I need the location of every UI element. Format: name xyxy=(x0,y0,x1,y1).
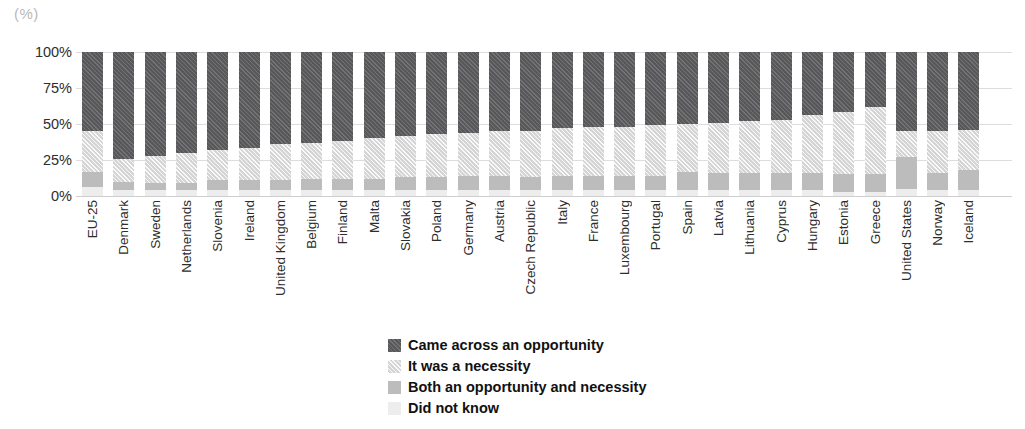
chart-bar[interactable] xyxy=(645,52,666,196)
chart-bar-segment xyxy=(176,183,197,190)
chart-bar-segment xyxy=(458,190,479,196)
chart-bar-segment xyxy=(145,52,166,156)
chart-bar-segment xyxy=(270,190,291,196)
chart-bar-segment xyxy=(82,131,103,171)
chart-bar-segment xyxy=(614,190,635,196)
x-axis-tick-label: Netherlands xyxy=(176,200,197,273)
chart-bar-segment xyxy=(113,159,134,182)
pale-grey-swatch xyxy=(388,402,401,415)
chart-bar-segment xyxy=(614,176,635,190)
chart-bar[interactable] xyxy=(489,52,510,196)
chart-bar-segment xyxy=(426,134,447,177)
chart-bar[interactable] xyxy=(239,52,260,196)
chart-bar[interactable] xyxy=(176,52,197,196)
light-hatch-swatch xyxy=(388,360,401,373)
chart-bar-segment xyxy=(364,179,385,191)
chart-bar[interactable] xyxy=(771,52,792,196)
legend-item-label: Did not know xyxy=(408,400,499,416)
chart-bar-segment xyxy=(802,173,823,190)
chart-bar-segment xyxy=(113,52,134,159)
chart-bar[interactable] xyxy=(614,52,635,196)
y-axis-tick-label: 100% xyxy=(14,44,72,60)
chart-bar-segment xyxy=(708,190,729,196)
chart-bar[interactable] xyxy=(426,52,447,196)
chart-bar[interactable] xyxy=(458,52,479,196)
legend-item[interactable]: It was a necessity xyxy=(388,356,768,376)
chart-bar-segment xyxy=(677,124,698,172)
chart-bar-segment xyxy=(301,52,322,143)
chart-bar[interactable] xyxy=(364,52,385,196)
chart-bar-segment xyxy=(677,190,698,196)
chart-bar-segment xyxy=(458,133,479,176)
chart-bar-segment xyxy=(332,52,353,141)
x-axis-tick-label: Malta xyxy=(364,200,385,233)
chart-bar[interactable] xyxy=(865,52,886,196)
chart-bar[interactable] xyxy=(552,52,573,196)
chart-bar-segment xyxy=(552,128,573,176)
x-axis-tick-label: Finland xyxy=(332,200,353,244)
chart-bar-segment xyxy=(865,52,886,107)
legend-item-label: Came across an opportunity xyxy=(408,337,604,353)
chart-bar-segment xyxy=(82,52,103,131)
chart-bar[interactable] xyxy=(677,52,698,196)
chart-bar[interactable] xyxy=(958,52,979,196)
chart-bar-segment xyxy=(958,52,979,130)
chart-bar[interactable] xyxy=(583,52,604,196)
chart-legend: Came across an opportunityIt was a neces… xyxy=(388,335,768,419)
chart-bar-segment xyxy=(677,172,698,191)
chart-bar-segment xyxy=(896,189,917,196)
x-axis-tick-label: Italy xyxy=(552,200,573,225)
legend-item[interactable]: Did not know xyxy=(388,398,768,418)
chart-bar-segment xyxy=(958,130,979,170)
chart-bar[interactable] xyxy=(145,52,166,196)
x-axis-tick-label: Slovakia xyxy=(395,200,416,251)
chart-bar-segment xyxy=(395,52,416,136)
x-axis-tick-label: France xyxy=(583,200,604,242)
chart-bar-segment xyxy=(833,52,854,112)
chart-bar[interactable] xyxy=(113,52,134,196)
chart-bar-segment xyxy=(833,192,854,196)
chart-bar-segment xyxy=(239,190,260,196)
chart-bar-segment xyxy=(520,52,541,131)
chart-bar[interactable] xyxy=(207,52,228,196)
chart-bar-segment xyxy=(207,190,228,196)
chart-bar[interactable] xyxy=(833,52,854,196)
legend-item[interactable]: Both an opportunity and necessity xyxy=(388,377,768,397)
x-axis-tick-label: Hungary xyxy=(802,200,823,251)
chart-bar-segment xyxy=(176,190,197,196)
chart-bar-segment xyxy=(364,52,385,138)
x-axis-tick-label: Norway xyxy=(927,200,948,246)
chart-bar[interactable] xyxy=(395,52,416,196)
chart-bar-segment xyxy=(802,190,823,196)
x-axis-tick-label: Lithuania xyxy=(739,200,760,255)
chart-bar[interactable] xyxy=(739,52,760,196)
x-axis-tick-label: Slovenia xyxy=(207,200,228,252)
chart-bar-segment xyxy=(395,177,416,190)
chart-bar-segment xyxy=(802,115,823,173)
chart-bar-segment xyxy=(426,190,447,196)
chart-bar-segment xyxy=(520,177,541,190)
chart-bar-segment xyxy=(270,180,291,190)
chart-bar-segment xyxy=(833,112,854,174)
chart-bar[interactable] xyxy=(301,52,322,196)
chart-bar[interactable] xyxy=(708,52,729,196)
chart-bar[interactable] xyxy=(332,52,353,196)
legend-item[interactable]: Came across an opportunity xyxy=(388,335,768,355)
chart-bar-segment xyxy=(708,123,729,173)
x-axis-tick-label: Estonia xyxy=(833,200,854,245)
chart-bar[interactable] xyxy=(82,52,103,196)
chart-bar-segment xyxy=(552,190,573,196)
chart-bar[interactable] xyxy=(802,52,823,196)
chart-bar[interactable] xyxy=(927,52,948,196)
chart-bar[interactable] xyxy=(270,52,291,196)
chart-bar[interactable] xyxy=(896,52,917,196)
chart-bar[interactable] xyxy=(520,52,541,196)
x-axis-tick-label: Cyprus xyxy=(771,200,792,243)
chart-plot-area xyxy=(82,52,1012,196)
x-axis-tick-label: Latvia xyxy=(708,200,729,236)
chart-bar-segment xyxy=(583,176,604,190)
chart-bar-segment xyxy=(489,131,510,176)
x-axis-tick-label: Belgium xyxy=(301,200,322,249)
chart-bar-segment xyxy=(395,190,416,196)
chart-bar-segment xyxy=(489,190,510,196)
